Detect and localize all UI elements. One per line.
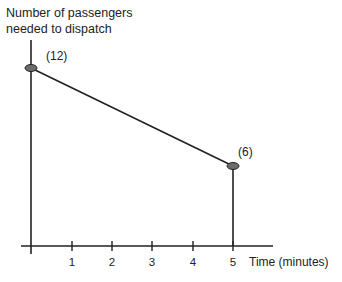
x-tick-label-1: 1: [69, 256, 75, 268]
y-axis-label-line-2: needed to dispatch: [6, 22, 112, 36]
data-point-end: [227, 163, 239, 170]
x-tick-label-2: 2: [109, 256, 115, 268]
annotation-start-value: (12): [46, 49, 67, 63]
x-axis-label: Time (minutes): [249, 255, 329, 269]
data-line: [31, 68, 233, 166]
chart: Number of passengers needed to dispatch …: [0, 0, 342, 282]
y-axis-label-line-1: Number of passengers: [6, 6, 132, 20]
annotation-end-value: (6): [238, 145, 253, 159]
data-point-start: [25, 65, 37, 72]
x-tick-label-3: 3: [149, 256, 155, 268]
x-tick-label-5: 5: [230, 256, 236, 268]
x-tick-label-4: 4: [190, 256, 197, 268]
